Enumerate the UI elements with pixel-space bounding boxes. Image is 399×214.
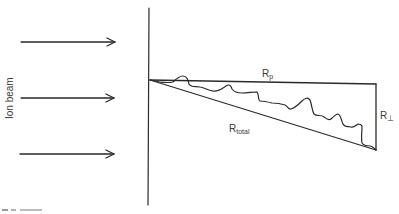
ion-beam-arrow-2	[21, 94, 114, 102]
projected-range-line	[150, 80, 376, 84]
cut-off-caption-fragment	[2, 207, 42, 212]
r-perpendicular-label: R⊥	[380, 110, 394, 123]
r-p-label: Rp	[262, 68, 273, 81]
r-total-label: Rtotal	[229, 123, 250, 135]
target-surface-line	[148, 8, 149, 205]
ion-beam-arrow-1	[21, 38, 115, 46]
ion-beam-label: Ion beam	[4, 77, 15, 119]
ion-range-diagram: Ion beam Rp R⊥ Rtotal	[0, 0, 399, 214]
ion-beam-arrow-3	[20, 150, 114, 158]
total-range-line	[150, 80, 376, 150]
